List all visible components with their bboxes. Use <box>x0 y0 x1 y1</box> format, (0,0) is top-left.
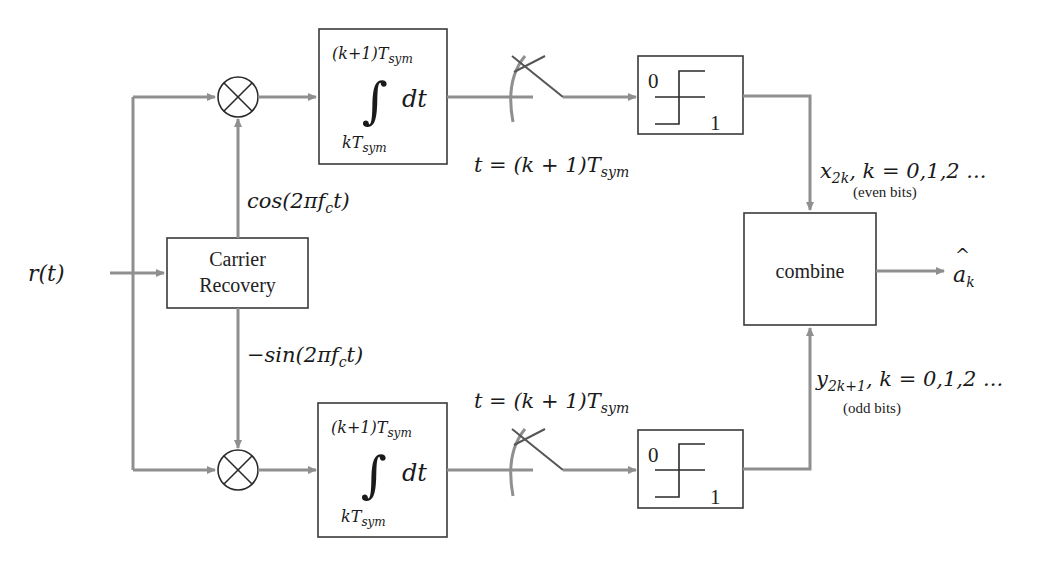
even-branch-label: x2k, k = 0,1,2 ... <box>820 159 986 186</box>
decision-zero-label: 0 <box>648 69 659 93</box>
switch-arc-icon <box>511 429 525 496</box>
bottom-mixer <box>218 450 258 490</box>
bottom-sampling-time-label: t = (k + 1)Tsym <box>474 389 629 416</box>
decision-one-label: 1 <box>710 485 721 509</box>
top-sampling-time-label: t = (k + 1)Tsym <box>474 153 629 180</box>
bottom-sampler-switch <box>447 429 636 496</box>
odd-bits-wire <box>743 328 810 469</box>
demodulator-diagram: r(t) Carrier Recovery cos(2πfct) −sin(2π… <box>0 0 1061 568</box>
even-bits-note: (even bits) <box>853 184 917 201</box>
odd-bits-note: (odd bits) <box>843 400 901 417</box>
top-decision-block: 0 1 <box>638 56 743 135</box>
switch-blade-icon <box>512 429 563 470</box>
carrier-recovery-label-2: Recovery <box>199 274 276 297</box>
decision-one-label: 1 <box>710 111 721 135</box>
integral-differential: dt <box>402 459 427 487</box>
bottom-decision-block: 0 1 <box>638 430 743 509</box>
odd-branch-label: y2k+1, k = 0,1,2 ... <box>815 367 1003 394</box>
even-bits-wire <box>743 96 810 210</box>
bottom-integrator-block: (k+1)Tsym ∫ dt kTsym <box>318 403 447 537</box>
carrier-recovery-label-1: Carrier <box>209 248 266 270</box>
cos-carrier-label: cos(2πfct) <box>247 189 350 216</box>
integral-icon: ∫ <box>362 72 388 130</box>
integral-differential: dt <box>402 85 427 113</box>
combine-label: combine <box>776 260 845 282</box>
decision-zero-label: 0 <box>648 443 659 467</box>
input-signal-label: r(t) <box>28 261 65 286</box>
carrier-recovery-block: Carrier Recovery <box>167 238 308 308</box>
top-mixer <box>218 77 258 117</box>
sin-carrier-label: −sin(2πfct) <box>247 343 363 370</box>
top-sampler-switch <box>447 56 636 122</box>
combine-block: combine <box>744 213 876 325</box>
output-symbol-label: ak <box>953 262 975 290</box>
integral-icon: ∫ <box>361 446 387 504</box>
top-integrator-block: (k+1)Tsym ∫ dt kTsym <box>319 29 447 164</box>
switch-blade-icon <box>512 56 563 97</box>
